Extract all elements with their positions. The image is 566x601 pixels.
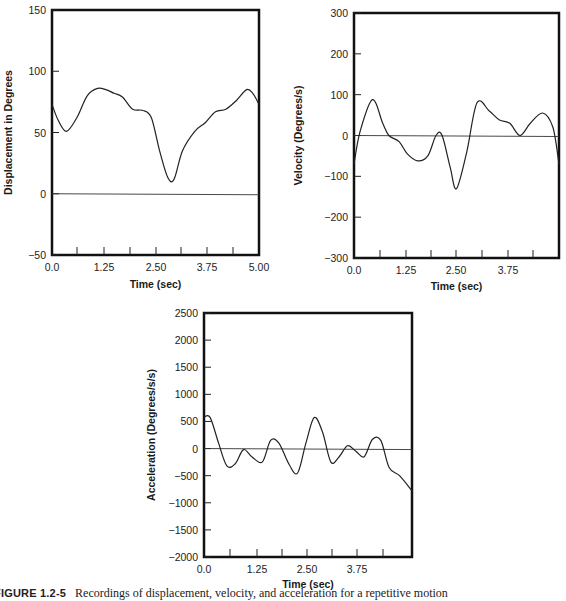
x-tick-label: 2.50 bbox=[446, 264, 467, 276]
y-axis-title: Velocity (Degrees/s) bbox=[292, 86, 304, 186]
x-tick-label: 3.75 bbox=[498, 264, 519, 276]
y-tick-label: −2000 bbox=[169, 551, 199, 563]
y-tick-label: −200 bbox=[324, 211, 348, 223]
chart-acceleration: 25002000150010005000−500−1000−1500−2000 … bbox=[145, 307, 412, 590]
y-tick-label: 100 bbox=[330, 89, 348, 101]
x-tick-label: 1.25 bbox=[94, 261, 115, 273]
y-axis-title: Displacement in Degrees bbox=[2, 70, 14, 195]
x-tick-label: 2.50 bbox=[297, 563, 318, 575]
y-tick-label: 0 bbox=[342, 130, 348, 142]
y-axis-title: Acceleration (Degrees/s/s) bbox=[145, 369, 157, 501]
x-axis-title: Time (sec) bbox=[130, 278, 182, 290]
y-tick-label: 200 bbox=[330, 48, 348, 60]
y-tick-label: −100 bbox=[324, 170, 348, 182]
y-tick-label: −1500 bbox=[169, 524, 199, 536]
zero-line bbox=[204, 449, 412, 450]
y-tick-label: 1000 bbox=[175, 388, 199, 400]
y-tick-label: 300 bbox=[330, 7, 348, 19]
x-tick-label: 0.0 bbox=[45, 261, 60, 273]
x-tick-label: 2.50 bbox=[146, 261, 167, 273]
x-tick-label: 3.75 bbox=[347, 563, 368, 575]
y-tick-label: 500 bbox=[180, 415, 198, 427]
y-tick-label: 2000 bbox=[175, 334, 199, 346]
displacement-curve bbox=[52, 88, 259, 182]
x-tick-label: 0.0 bbox=[197, 563, 212, 575]
caption-text: Recordings of displacement, velocity, an… bbox=[75, 586, 448, 600]
chart-displacement: 150100500−50 0.01.252.503.755.00 Time (s… bbox=[2, 4, 269, 290]
y-axis-ticks: 150100500−50 bbox=[28, 4, 59, 261]
x-tick-label: 1.25 bbox=[247, 563, 268, 575]
y-tick-label: −300 bbox=[324, 252, 348, 264]
figure-caption: FIGURE 1.2-5 Recordings of displacement,… bbox=[0, 586, 566, 601]
y-tick-label: 50 bbox=[34, 127, 46, 139]
x-axis-title: Time (sec) bbox=[431, 280, 483, 292]
y-tick-label: −50 bbox=[28, 249, 46, 261]
zero-line bbox=[52, 194, 259, 195]
y-tick-label: 0 bbox=[40, 188, 46, 200]
velocity-curve bbox=[354, 100, 559, 189]
y-tick-label: 0 bbox=[192, 443, 198, 455]
y-tick-label: 1500 bbox=[175, 361, 199, 373]
y-tick-label: 100 bbox=[28, 65, 46, 77]
x-tick-label: 0.0 bbox=[347, 264, 362, 276]
x-tick-label: 3.75 bbox=[197, 261, 218, 273]
x-axis-ticks: 0.01.252.503.75 bbox=[197, 549, 383, 575]
y-tick-label: 2500 bbox=[175, 307, 199, 319]
y-tick-label: −500 bbox=[174, 470, 198, 482]
y-tick-label: −1000 bbox=[169, 497, 199, 509]
y-tick-label: 150 bbox=[28, 4, 46, 16]
zero-line bbox=[354, 136, 559, 137]
x-axis-ticks: 0.01.252.503.755.00 bbox=[45, 247, 270, 273]
x-axis-ticks: 0.01.252.503.75 bbox=[347, 250, 533, 276]
x-tick-label: 5.00 bbox=[249, 261, 270, 273]
chart-velocity: 3002001000−100−200−300 0.01.252.503.75 T… bbox=[292, 7, 559, 292]
acceleration-curve bbox=[204, 416, 412, 491]
x-tick-label: 1.25 bbox=[396, 264, 417, 276]
figure-label: FIGURE 1.2-5 bbox=[0, 587, 66, 599]
